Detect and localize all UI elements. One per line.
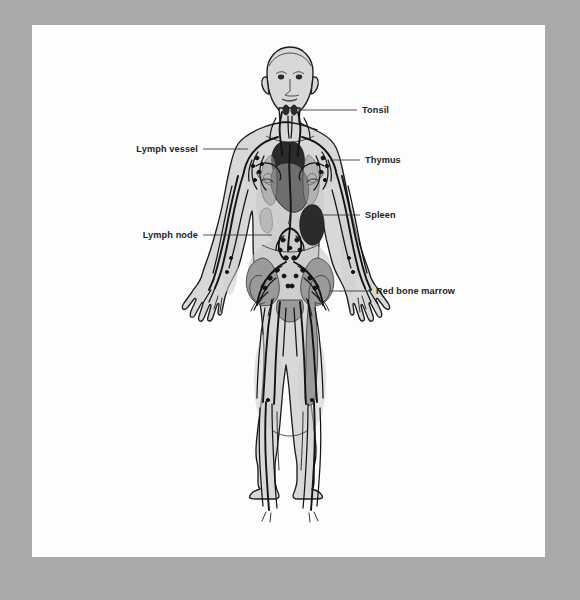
spleen-organ [300,205,324,245]
label-text-thymus: Thymus [365,155,401,165]
label-lymph-vessel[interactable]: Lymph vessel [136,144,248,154]
label-tonsil[interactable]: Tonsil [298,105,389,115]
label-text-red-bone-marrow: Red bone marrow [376,286,456,296]
label-text-lymph-vessel: Lymph vessel [136,144,198,154]
anatomy-illustration: Tonsil Lymph vessel Thymus Spleen Lymph … [0,0,580,600]
label-text-spleen: Spleen [365,210,396,220]
label-text-tonsil: Tonsil [362,105,389,115]
label-text-lymph-node: Lymph node [143,230,198,240]
lymphatic-system-figure: Tonsil Lymph vessel Thymus Spleen Lymph … [0,0,580,600]
